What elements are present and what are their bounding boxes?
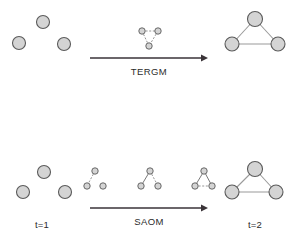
figure-canvas: TERGMSAOMt=1t=2 xyxy=(0,0,299,250)
network-node xyxy=(155,183,161,189)
network-node xyxy=(248,12,263,27)
tergm-start-network xyxy=(13,16,71,51)
tergm-model-label: TERGM xyxy=(131,66,167,77)
time-label-t2: t=2 xyxy=(248,219,262,230)
network-node xyxy=(248,162,263,177)
network-node xyxy=(100,183,106,189)
network-node xyxy=(225,37,239,51)
network-node xyxy=(59,186,72,199)
network-node xyxy=(37,16,50,29)
network-node xyxy=(92,168,98,174)
tergm-row-arrow-head xyxy=(201,55,208,62)
saom-step-3-network xyxy=(192,168,215,189)
network-node xyxy=(58,38,71,51)
network-node xyxy=(225,185,239,199)
saom-step-2-network xyxy=(138,168,161,189)
network-node xyxy=(201,168,207,174)
network-node xyxy=(269,185,283,199)
network-node xyxy=(147,168,153,174)
network-node xyxy=(17,186,30,199)
network-node xyxy=(13,37,26,50)
saom-step-1-network xyxy=(84,168,106,189)
saom-start-network xyxy=(17,166,72,199)
network-node xyxy=(192,183,198,189)
network-node xyxy=(271,37,285,51)
tergm-end-network xyxy=(225,12,285,52)
saom-model-label: SAOM xyxy=(134,216,164,227)
network-evolution-figure: TERGMSAOMt=1t=2 xyxy=(0,0,299,250)
time-label-t1: t=1 xyxy=(35,219,49,230)
network-node xyxy=(138,183,144,189)
network-node xyxy=(38,166,51,179)
network-node xyxy=(209,183,215,189)
saom-end-network xyxy=(225,162,283,200)
saom-row xyxy=(17,162,284,212)
network-node xyxy=(139,28,145,34)
network-node xyxy=(155,28,161,34)
saom-row-arrow-head xyxy=(201,205,208,212)
tergm-intermediate-network xyxy=(139,28,161,49)
network-node xyxy=(84,183,90,189)
network-node xyxy=(146,43,152,49)
tergm-row xyxy=(13,12,286,62)
